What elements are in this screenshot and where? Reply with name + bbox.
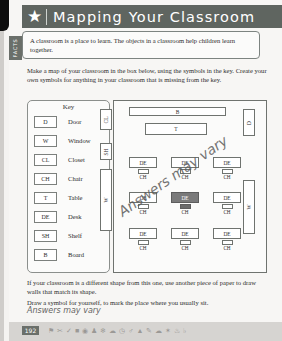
key-row-board: B Board — [28, 245, 109, 264]
key-row-door: D Door — [28, 112, 109, 131]
desk-label: DE — [213, 192, 241, 203]
snowflake-icon: ❄ — [100, 327, 106, 335]
people-icon: ♟ — [91, 327, 97, 335]
map-table: T — [145, 123, 207, 135]
chair-label: CH — [171, 209, 199, 215]
key-symbol-de: DE — [34, 211, 57, 223]
desk-group[interactable]: DE CH — [213, 228, 241, 251]
key-label-door: Door — [68, 118, 82, 125]
desk-label: DE — [171, 157, 199, 168]
desk-label: DE — [213, 157, 241, 168]
desk-label: DE — [129, 157, 157, 168]
person-icon: ♂ — [128, 327, 133, 335]
classroom-map[interactable]: CL SH W B T D W DE CH DE CH DE CH — [113, 100, 267, 273]
map-window-left: W — [100, 169, 112, 231]
header-divider — [46, 9, 47, 25]
pencil-icon: ✎ — [146, 327, 152, 335]
star-small-icon: ✶ — [165, 327, 171, 335]
leaf-icon: ♨ — [174, 327, 180, 335]
desk-group[interactable]: DE CH — [213, 157, 241, 180]
key-row-table: T Table — [28, 188, 109, 207]
map-shelf-left: SH — [100, 143, 112, 160]
key-symbol-w: W — [34, 135, 57, 147]
page-edge-strip — [0, 0, 4, 341]
key-row-window: W Window — [28, 131, 109, 150]
desk-group-marked[interactable]: DE CH — [171, 192, 199, 215]
desk-label: DE — [213, 228, 241, 239]
key-label-closet: Closet — [68, 156, 85, 163]
key-symbol-d: D — [34, 116, 57, 128]
map-closet-left: CL — [100, 109, 112, 130]
map-door-right: D — [243, 109, 255, 136]
chair-label: CH — [129, 209, 157, 215]
key-row-closet: CL Closet — [28, 150, 109, 169]
key-symbol-cl: CL — [34, 154, 57, 166]
chair-label: CH — [213, 209, 241, 215]
facts-tab-label: FACTS — [13, 39, 19, 58]
page-corner-mark — [0, 0, 9, 31]
key-title: Key — [28, 101, 109, 112]
key-label-board: Board — [68, 251, 84, 258]
flag-icon: ⚑ — [48, 327, 54, 335]
worksheet-page: ★ Mapping Your Classroom FACTS A classro… — [0, 0, 282, 341]
desk-label: DE — [129, 192, 157, 203]
camera-icon: ◉ — [82, 327, 88, 335]
desk-group[interactable]: DE CH — [129, 192, 157, 215]
chair-label: CH — [171, 245, 199, 251]
desk-group[interactable]: DE CH — [129, 228, 157, 251]
key-symbol-t: T — [34, 192, 57, 204]
star-icon: ★ — [22, 5, 46, 28]
check-icon: ✓ — [66, 327, 72, 335]
instructions-paragraph: Make a map of your classroom in the box … — [27, 66, 267, 85]
star-glyph: ★ — [27, 8, 42, 25]
desk-group[interactable]: DE CH — [171, 228, 199, 251]
chair-label: CH — [213, 245, 241, 251]
facts-tab: FACTS — [9, 36, 22, 60]
key-label-desk: Desk — [68, 213, 82, 220]
bottom-paragraph-1: If your classroom is a different shape f… — [27, 278, 267, 297]
thumbsup-icon: ▲ — [136, 327, 143, 335]
desk-label: DE — [129, 228, 157, 239]
desk-group[interactable]: DE CH — [171, 157, 199, 180]
desk-label: DE — [171, 228, 199, 239]
cloud-icon: ☁ — [109, 327, 116, 335]
chair-label: CH — [213, 174, 241, 180]
key-label-shelf: Shelf — [68, 232, 82, 239]
footer-icon-strip: ⚑ ✂ ✓ ■ ◉ ♟ ❄ ☁ ◷ ♂ ▲ ✎ ☁ ✶ ♨ ♭ — [48, 325, 238, 336]
scissors-icon: ✂ — [57, 327, 63, 335]
desk-label-marked: DE — [171, 192, 199, 203]
chair-label: CH — [171, 174, 199, 180]
square-icon: ■ — [75, 327, 79, 335]
facts-box: A classroom is a place to learn. The obj… — [22, 31, 260, 59]
map-window-right: W — [243, 180, 255, 234]
cloud2-icon: ☁ — [155, 327, 162, 335]
key-label-chair: Chair — [68, 175, 83, 182]
key-row-desk: DE Desk — [28, 207, 109, 226]
clock-icon: ◷ — [119, 327, 125, 335]
page-header: ★ Mapping Your Classroom — [22, 5, 282, 28]
key-panel: Key D Door W Window CL Closet CH Chair T… — [27, 100, 110, 273]
map-board: B — [129, 107, 226, 116]
desk-group[interactable]: DE CH — [213, 192, 241, 215]
chair-label: CH — [129, 245, 157, 251]
key-symbol-ch: CH — [34, 173, 57, 185]
chair-label: CH — [129, 174, 157, 180]
bottom-paragraph-2: Draw a symbol for yourself, to mark the … — [27, 298, 267, 307]
key-symbol-sh: SH — [34, 230, 57, 242]
facts-text: A classroom is a place to learn. The obj… — [30, 36, 252, 54]
key-label-table: Table — [68, 194, 83, 201]
key-row-shelf: SH Shelf — [28, 226, 109, 245]
key-label-window: Window — [68, 137, 90, 144]
key-symbol-b: B — [34, 249, 57, 261]
page-title: Mapping Your Classroom — [53, 9, 255, 25]
desk-group[interactable]: DE CH — [129, 157, 157, 180]
bell-icon: ♭ — [183, 327, 186, 335]
key-row-chair: CH Chair — [28, 169, 109, 188]
page-number: 192 — [22, 326, 39, 335]
